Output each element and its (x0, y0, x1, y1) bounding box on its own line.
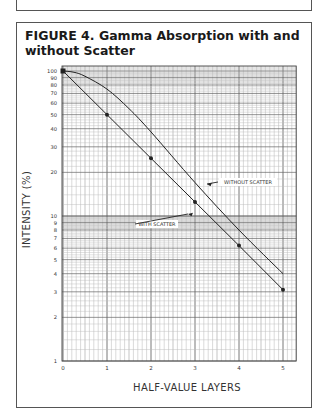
x-tick-label: 0 (61, 365, 65, 371)
chart: 123456789102030405060708090100012345HALF… (0, 0, 325, 417)
grid (62, 66, 296, 361)
without-scatter-label: WITHOUT SCATTER (207, 178, 277, 186)
y-tick-label: 60 (50, 100, 57, 106)
y-axis-title: INTENSITY (%) (21, 171, 32, 249)
x-tick-label: 3 (193, 365, 197, 371)
y-tick-label: 8 (54, 227, 57, 233)
y-tick-label: 30 (50, 144, 57, 150)
x-tick-label: 4 (237, 365, 241, 371)
data-point (193, 200, 197, 204)
y-tick-label: 6 (54, 245, 57, 251)
y-tick-label: 4 (54, 271, 58, 277)
y-tick-label: 10 (50, 213, 57, 219)
y-tick-labels: 123456789102030405060708090100 (47, 68, 58, 364)
data-point (105, 113, 109, 117)
data-point (149, 156, 153, 160)
y-tick-label: 2 (54, 314, 57, 320)
y-tick-label: 20 (50, 169, 57, 175)
y-tick-label: 9 (54, 220, 57, 226)
data-point (281, 288, 285, 292)
y-tick-label: 70 (50, 90, 57, 96)
y-tick-label: 40 (50, 126, 57, 132)
y-tick-label: 80 (50, 82, 57, 88)
x-axis-title: HALF-VALUE LAYERS (133, 382, 241, 393)
y-tick-label: 5 (54, 257, 57, 263)
y-tick-label: 90 (50, 75, 57, 81)
y-tick-label: 100 (47, 68, 57, 74)
x-tick-labels: 012345 (61, 365, 285, 371)
y-tick-label: 7 (54, 235, 57, 241)
y-tick-label: 1 (54, 358, 57, 364)
y-tick-label: 50 (50, 112, 57, 118)
data-point (237, 244, 241, 248)
x-tick-label: 5 (281, 365, 285, 371)
x-tick-label: 1 (105, 365, 109, 371)
without-scatter-label-text: WITHOUT SCATTER (224, 179, 272, 185)
x-tick-label: 2 (149, 365, 153, 371)
y-tick-label: 3 (54, 289, 57, 295)
origin-marker (61, 69, 66, 74)
